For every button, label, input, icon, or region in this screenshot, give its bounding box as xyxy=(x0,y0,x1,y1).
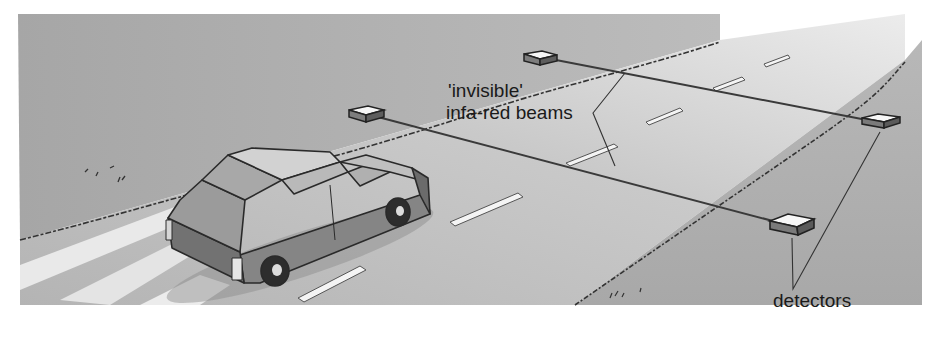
illustration-canvas xyxy=(0,0,935,339)
beams-label-line2: infa-red beams xyxy=(446,102,573,123)
detector-far-left xyxy=(524,51,557,65)
detectors-label: detectors xyxy=(773,290,851,311)
road-illustration: 'invisible' infa-red beams detectors xyxy=(0,0,935,339)
beams-label-line1: 'invisible' xyxy=(448,80,523,101)
